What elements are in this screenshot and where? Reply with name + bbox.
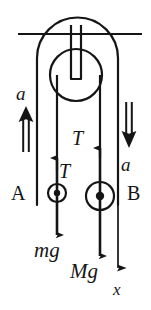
- acceleration-arrow-left: [19, 106, 34, 152]
- pulley-bracket: [37, 18, 118, 206]
- label-weight-b: Mg: [70, 261, 98, 282]
- label-tension-a: T: [59, 161, 70, 181]
- label-body-b: B: [127, 183, 140, 203]
- acceleration-arrow-right: [122, 102, 137, 148]
- label-x-axis: x: [113, 281, 121, 298]
- label-body-a: A: [11, 183, 25, 203]
- label-weight-a: mg: [34, 240, 60, 261]
- physics-diagram-figure: a a A B T T mg Mg x: [0, 0, 151, 310]
- label-acceleration-right: a: [121, 155, 131, 174]
- label-tension-b: T: [72, 128, 83, 148]
- label-acceleration-left: a: [16, 84, 26, 103]
